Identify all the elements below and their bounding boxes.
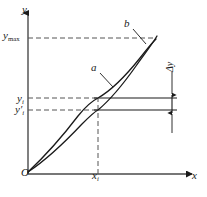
curve-a-label: a <box>91 62 97 73</box>
curve-a <box>28 39 156 172</box>
y-i-prime-tick-label: y′i <box>15 104 24 115</box>
level-lines <box>94 98 177 110</box>
callout-leader-a <box>100 73 113 87</box>
y-max-tick-label: ymax <box>3 30 20 41</box>
origin-label: O <box>21 167 29 178</box>
y-i-prime-subscript: i <box>22 109 24 116</box>
y-max-subscript: max <box>8 35 20 42</box>
y-axis-label: y <box>22 4 27 15</box>
axis-group <box>28 13 192 174</box>
curve-group <box>28 36 157 172</box>
delta-y-label: Δy <box>165 62 175 72</box>
x-axis-label: x <box>192 170 197 181</box>
x-i-tick-label: xi <box>92 170 99 181</box>
x-i-subscript: i <box>97 175 99 182</box>
line-diagram-figure: y x O ymax yi y′i xi a b Δy <box>0 0 207 197</box>
curve-b-label: b <box>124 18 130 29</box>
callout-leader-b <box>133 29 146 44</box>
diagram-canvas <box>0 0 207 197</box>
